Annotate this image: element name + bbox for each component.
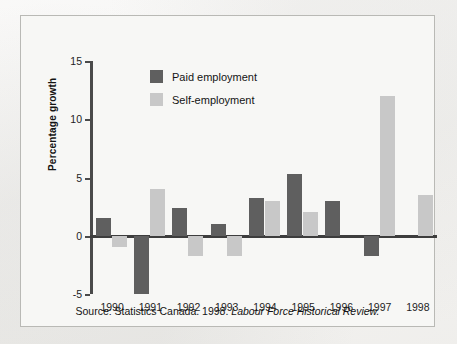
bar-group-1990: 1990 [93,61,131,294]
y-axis-title: Percentage growth [47,78,58,171]
y-tick-label-0: 0 [76,230,82,242]
y-tick-label-10: 10 [70,113,82,125]
bar-1991-self-employment [150,189,165,236]
bar-group-1995: 1995 [284,61,322,294]
y-tick-label--5: -5 [73,288,82,300]
plot-area: 151050-5 1990199119921993199419951996199… [90,61,437,294]
y-tick-10 [85,119,90,121]
bar-1991-paid-employment [134,236,149,294]
bar-1993-paid-employment [211,224,226,236]
bar-1990-paid-employment [96,218,111,235]
bar-group-1996: 1996 [322,61,360,294]
bar-1995-self-employment [303,212,318,235]
bar-1992-paid-employment [172,208,187,236]
bar-group-1991: 1991 [131,61,169,294]
y-tick-label-5: 5 [76,172,82,184]
bar-1997-paid-employment [364,236,379,256]
y-tick-15 [85,61,90,63]
caption-source: Source: Statistics Canada. 1998. [75,305,228,317]
bar-1994-paid-employment [249,198,264,235]
y-tick-5 [85,178,90,180]
bar-1993-self-employment [227,236,242,256]
bar-1990-self-employment [112,236,127,248]
bar-groups: 199019911992199319941995199619971998 [93,61,437,294]
bar-group-1992: 1992 [169,61,207,294]
y-tick--5 [85,294,90,296]
bar-group-1997: 1997 [361,61,399,294]
bar-group-1993: 1993 [208,61,246,294]
figure-caption: Source: Statistics Canada. 1998. Labour … [21,305,434,317]
figure-page: Percentage growth Paid employment Self-e… [0,0,457,344]
bar-1994-self-employment [265,201,280,236]
bar-1996-paid-employment [325,201,340,236]
bar-group-1998: 1998 [399,61,437,294]
bar-1998-self-employment [418,195,433,236]
bar-1997-self-employment [380,96,395,236]
bar-group-1994: 1994 [246,61,284,294]
chart-frame: Percentage growth Paid employment Self-e… [20,15,435,327]
y-tick-label-15: 15 [70,55,82,67]
caption-publication: Labour Force Historical Review. [231,305,379,317]
bar-1995-paid-employment [287,174,302,236]
bar-1992-self-employment [188,236,203,256]
